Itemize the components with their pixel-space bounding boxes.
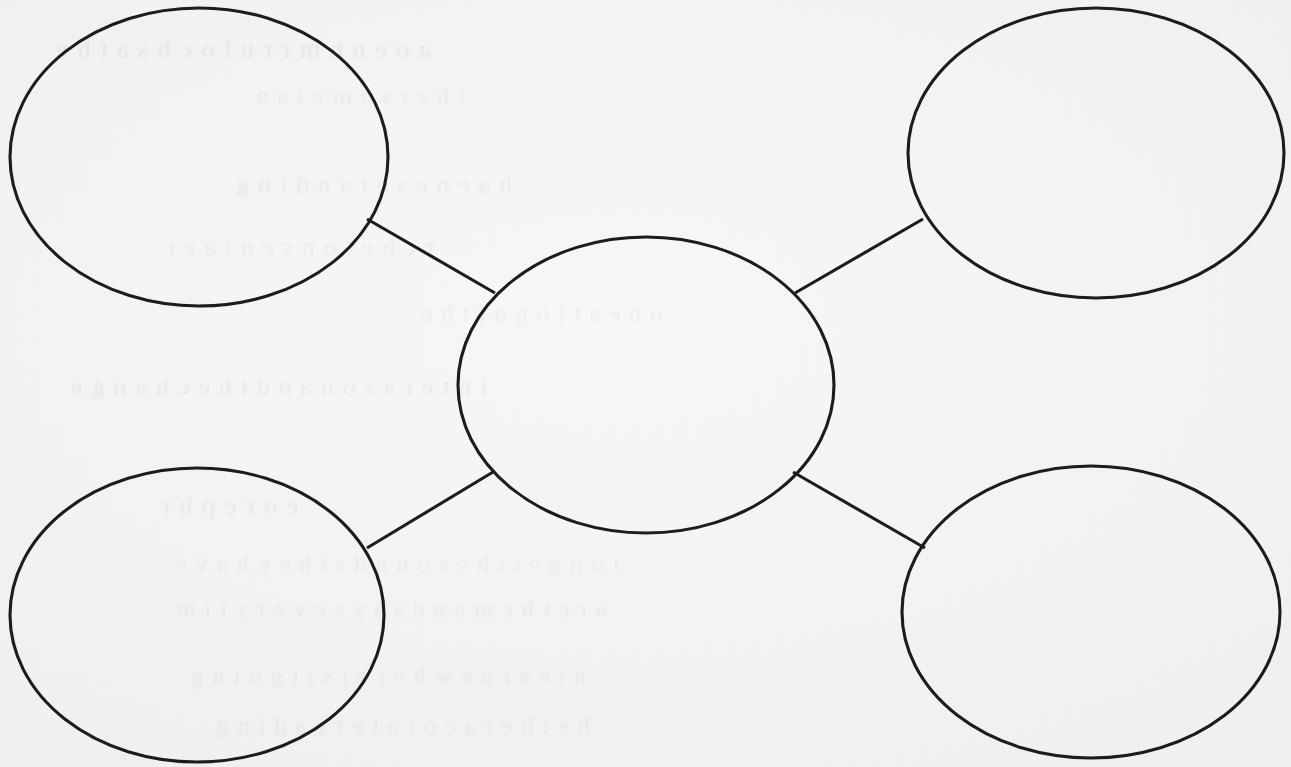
connectors-group <box>367 219 925 548</box>
concept-web-svg <box>0 0 1291 767</box>
node-ellipse-bottom-right[interactable] <box>902 466 1280 758</box>
connector-center-to-bottom-left <box>367 472 493 548</box>
node-ellipse-bottom-left[interactable] <box>10 468 384 762</box>
concept-map-diagram <box>0 0 1291 767</box>
node-ellipse-top-right[interactable] <box>908 8 1284 298</box>
node-ellipse-center[interactable] <box>458 237 834 533</box>
connector-center-to-bottom-right <box>793 472 925 548</box>
connector-center-to-top-right <box>795 219 923 293</box>
connector-center-to-top-left <box>367 219 495 293</box>
nodes-group <box>10 8 1284 762</box>
node-ellipse-top-left[interactable] <box>10 8 388 306</box>
worksheet-page: a o e n n m r r u l o c h s a t h et h e… <box>0 0 1291 767</box>
